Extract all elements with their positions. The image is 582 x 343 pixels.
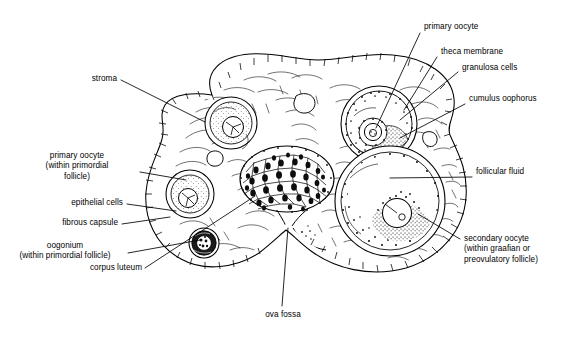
label-primary-oocyte: primary oocyte bbox=[424, 22, 514, 32]
stromal-lacuna-3 bbox=[423, 132, 438, 147]
oocyte-nucleus-upper-right bbox=[369, 129, 376, 136]
leader-ova-fossa bbox=[282, 228, 288, 306]
corpus-luteum bbox=[240, 146, 334, 213]
figure-page: stroma primary oocyte (within primordial… bbox=[0, 0, 582, 343]
label-primary-oocyte-primordial: primary oocyte (within primordial follic… bbox=[18, 151, 136, 182]
label-stroma: stroma bbox=[45, 74, 117, 84]
label-fibrous-capsule: fibrous capsule bbox=[33, 218, 118, 228]
label-theca-membrane: theca membrane bbox=[441, 47, 541, 57]
oogonium-follicle bbox=[189, 228, 219, 258]
label-oogonium: oogonium (within primordial follicle) bbox=[4, 241, 126, 262]
label-follicular-fluid: follicular fluid bbox=[476, 167, 566, 177]
label-granulosa-cells: granulosa cells bbox=[462, 63, 557, 73]
stromal-lacuna-2 bbox=[207, 151, 223, 166]
stromal-lacuna-1 bbox=[294, 94, 315, 114]
label-secondary-oocyte: secondary oocyte (within graafian or pre… bbox=[464, 234, 580, 265]
secondary-oocyte-nucleus bbox=[399, 214, 405, 220]
label-ova-fossa: ova fossa bbox=[252, 310, 314, 320]
primordial-follicle-upper bbox=[205, 97, 257, 149]
label-epithelial-cells: epithelial cells bbox=[33, 198, 123, 208]
label-corpus-luteum: corpus luteum bbox=[60, 263, 142, 273]
graafian-follicle bbox=[335, 146, 445, 256]
label-cumulus-oophorus: cumulus oophorus bbox=[469, 94, 574, 104]
